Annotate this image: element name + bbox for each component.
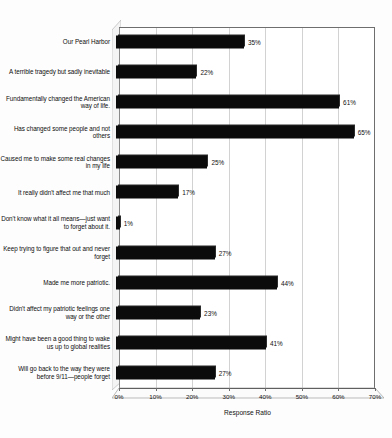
x-tick-mark xyxy=(192,388,193,391)
bar-zone: 23% xyxy=(113,298,392,328)
category-label: It really didn't affect me that much xyxy=(0,189,113,197)
chart-row: Fundamentally changed the American way o… xyxy=(0,87,392,117)
bar[interactable] xyxy=(116,246,215,259)
x-tick-mark xyxy=(119,388,120,391)
category-label: Don't know what it all means—just want t… xyxy=(0,215,113,230)
chart-row: Don't know what it all means—just want t… xyxy=(0,208,392,238)
x-tick-label: 50% xyxy=(296,393,308,400)
x-tick-mark xyxy=(375,388,376,391)
bar[interactable] xyxy=(116,66,196,79)
bar[interactable] xyxy=(116,216,120,229)
chart-row: Might have been a good thing to wake us … xyxy=(0,328,392,358)
chart-rows: Our Pearl Harbor35%A terrible tragedy bu… xyxy=(0,27,392,388)
bar-zone: 41% xyxy=(113,328,392,358)
bar-value-label: 41% xyxy=(270,339,283,346)
bar-value-label: 27% xyxy=(219,369,232,376)
bar-zone: 22% xyxy=(113,57,392,87)
category-label: Didn't affect my patriotic feelings one … xyxy=(0,305,113,320)
x-tick-label: 40% xyxy=(259,393,271,400)
x-tick-mark xyxy=(302,388,303,391)
x-tick-label: 10% xyxy=(149,393,161,400)
bar[interactable] xyxy=(116,36,244,49)
category-label: Fundamentally changed the American way o… xyxy=(0,95,113,110)
chart-row: Our Pearl Harbor35% xyxy=(0,27,392,57)
bar-zone: 61% xyxy=(113,87,392,117)
bar[interactable] xyxy=(116,366,215,379)
x-tick-label: 20% xyxy=(186,393,198,400)
x-tick-label: 0% xyxy=(115,393,124,400)
category-label: Made me more patriotic. xyxy=(0,279,113,287)
x-tick-label: 60% xyxy=(332,393,344,400)
chart-row: Made me more patriotic.44% xyxy=(0,268,392,298)
bar-group: 44% xyxy=(116,276,294,289)
category-label: A terrible tragedy but sadly inevitable xyxy=(0,68,113,76)
bar-value-label: 35% xyxy=(248,39,261,46)
bar-group: 65% xyxy=(116,126,371,139)
bar-zone: 17% xyxy=(113,177,392,207)
bar-zone: 35% xyxy=(113,27,392,57)
bar[interactable] xyxy=(116,186,178,199)
category-label: Has changed some people and not others xyxy=(0,125,113,140)
chart-row: Didn't affect my patriotic feelings one … xyxy=(0,298,392,328)
bar-value-label: 25% xyxy=(211,159,224,166)
chart-title xyxy=(0,0,392,6)
bar-zone: 27% xyxy=(113,358,392,388)
x-tick-mark xyxy=(229,388,230,391)
bar-group: 35% xyxy=(116,36,261,49)
x-tick-label: 30% xyxy=(223,393,235,400)
category-label: Our Pearl Harbor xyxy=(0,38,113,46)
bar-value-label: 61% xyxy=(343,99,356,106)
bar-value-label: 1% xyxy=(124,219,133,226)
bar-value-label: 65% xyxy=(358,129,371,136)
bar-group: 23% xyxy=(116,306,217,319)
bar[interactable] xyxy=(116,96,339,109)
bar-group: 27% xyxy=(116,246,232,259)
bar-value-label: 22% xyxy=(200,69,213,76)
bar-group: 61% xyxy=(116,96,356,109)
chart-row: Has changed some people and not others65… xyxy=(0,117,392,147)
bar-group: 41% xyxy=(116,336,283,349)
chart-row: A terrible tragedy but sadly inevitable2… xyxy=(0,57,392,87)
category-label: Will go back to the way they were before… xyxy=(0,365,113,380)
bar-zone: 65% xyxy=(113,117,392,147)
bar-group: 25% xyxy=(116,156,224,169)
bar-group: 17% xyxy=(116,186,195,199)
chart-row: It really didn't affect me that much17% xyxy=(0,177,392,207)
bar-group: 27% xyxy=(116,366,232,379)
bar-value-label: 17% xyxy=(182,189,195,196)
chart-row: Caused me to make some real changes in m… xyxy=(0,147,392,177)
bar[interactable] xyxy=(116,306,200,319)
x-tick-mark xyxy=(156,388,157,391)
bar[interactable] xyxy=(116,156,207,169)
x-tick-mark xyxy=(265,388,266,391)
bar-group: 22% xyxy=(116,66,213,79)
category-label: Keep trying to figure that out and never… xyxy=(0,245,113,260)
bar-zone: 27% xyxy=(113,238,392,268)
x-tick-label: 70% xyxy=(369,393,381,400)
bar-zone: 25% xyxy=(113,147,392,177)
bar[interactable] xyxy=(116,336,266,349)
bar-chart: Our Pearl Harbor35%A terrible tragedy bu… xyxy=(0,0,392,438)
bar-zone: 1% xyxy=(113,208,392,238)
category-label: Caused me to make some real changes in m… xyxy=(0,155,113,170)
x-axis-title: Response Ratio xyxy=(119,409,376,416)
chart-row: Will go back to the way they were before… xyxy=(0,358,392,388)
category-label: Might have been a good thing to wake us … xyxy=(0,335,113,350)
bar-value-label: 44% xyxy=(281,279,294,286)
bar[interactable] xyxy=(116,276,277,289)
bar-value-label: 27% xyxy=(219,249,232,256)
bar-zone: 44% xyxy=(113,268,392,298)
x-tick-mark xyxy=(338,388,339,391)
bar-value-label: 23% xyxy=(204,309,217,316)
chart-row: Keep trying to figure that out and never… xyxy=(0,238,392,268)
bar-group: 1% xyxy=(116,216,133,229)
bar[interactable] xyxy=(116,126,354,139)
